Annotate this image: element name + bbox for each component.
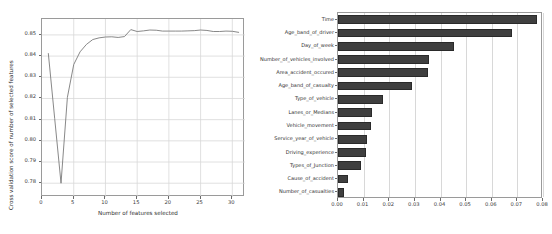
bar-category-label: Cause_of_accident: [287, 176, 334, 181]
bar: [338, 175, 348, 184]
y-tick-mark: [39, 97, 42, 98]
y-tick-mark: [335, 112, 337, 113]
bar-row: [338, 188, 541, 197]
bar-row: [338, 175, 541, 184]
bar-row: [338, 68, 541, 77]
bar: [338, 148, 366, 157]
x-tick-label: 15: [133, 200, 140, 205]
bar-chart-panel: TimeAge_band_of_driverDay_of_weekNumber_…: [276, 0, 552, 234]
bar-category-label: Lanes_or_Medians: [288, 109, 334, 114]
y-tick-mark: [335, 72, 337, 73]
bar-row: [338, 122, 541, 131]
y-tick-mark: [335, 191, 337, 192]
gridline: [543, 13, 544, 197]
y-tick-label: 0.83: [24, 74, 36, 79]
bar-category-label: Vehicle_movement: [287, 122, 334, 127]
bar-category-label: Type_of_vehicle: [295, 96, 334, 101]
bar-category-label: Number_of_vehicles_involved: [260, 56, 334, 61]
y-tick-mark: [335, 85, 337, 86]
line-chart-panel: Cross validation score of number of sele…: [0, 0, 276, 234]
y-tick-mark: [39, 161, 42, 162]
bar: [338, 108, 372, 117]
bar: [338, 15, 537, 24]
y-tick-mark: [39, 119, 42, 120]
bar-row: [338, 135, 541, 144]
line-chart-plot-area: [41, 18, 244, 196]
x-tick-label: 0.04: [434, 202, 446, 207]
y-tick-mark: [335, 125, 337, 126]
y-tick-mark: [335, 19, 337, 20]
figure-container: Cross validation score of number of sele…: [0, 0, 552, 234]
bar-row: [338, 148, 541, 157]
y-tick-label: 0.81: [24, 116, 36, 121]
bar: [338, 95, 383, 104]
y-tick-label: 0.79: [24, 158, 36, 163]
bar: [338, 135, 367, 144]
bar-row: [338, 95, 541, 104]
x-tick-label: 0.08: [536, 202, 548, 207]
bar-row: [338, 161, 541, 170]
x-tick-label: 10: [101, 200, 108, 205]
x-tick-label: 0.05: [459, 202, 471, 207]
bar-row: [338, 82, 541, 91]
y-tick-mark: [335, 138, 337, 139]
bar-row: [338, 42, 541, 51]
y-tick-label: 0.84: [24, 52, 36, 57]
x-tick-label: 30: [228, 200, 235, 205]
bar-category-label: Number_of_casualties: [279, 189, 334, 194]
y-tick-mark: [335, 59, 337, 60]
bar-chart-plot-area: [337, 12, 542, 198]
x-tick-label: 25: [196, 200, 203, 205]
y-tick-mark: [335, 165, 337, 166]
bar-category-label: Time: [322, 16, 334, 21]
bar-row: [338, 15, 541, 24]
x-tick-label: 5: [71, 200, 74, 205]
x-tick-label: 0.07: [511, 202, 523, 207]
y-tick-mark: [39, 76, 42, 77]
y-tick-label: 0.85: [24, 31, 36, 36]
bar: [338, 68, 428, 77]
line-chart-series: [42, 19, 245, 197]
x-tick-label: 0.00: [331, 202, 343, 207]
bar-category-label: Service_year_of_vehicle: [274, 136, 334, 141]
x-tick-label: 0.02: [382, 202, 394, 207]
line-chart-x-axis-title: Number of features selected: [98, 211, 178, 217]
bar-category-label: Types_of_Junction: [290, 162, 334, 167]
y-tick-mark: [39, 34, 42, 35]
y-tick-label: 0.80: [24, 137, 36, 142]
y-tick-mark: [39, 182, 42, 183]
bar-category-label: Age_band_of_driver: [285, 29, 334, 34]
y-tick-label: 0.78: [24, 180, 36, 185]
bar: [338, 161, 361, 170]
bar: [338, 55, 429, 64]
bar: [338, 42, 454, 51]
bar-row: [338, 29, 541, 38]
bar-row: [338, 108, 541, 117]
bar-category-label: Driving_experience: [286, 149, 334, 154]
line-chart-y-axis-title: Cross validation score of number of sele…: [9, 60, 15, 210]
bar: [338, 188, 344, 197]
x-tick-label: 0.01: [357, 202, 369, 207]
x-tick-label: 0.06: [485, 202, 497, 207]
bar: [338, 82, 412, 91]
y-tick-mark: [39, 55, 42, 56]
bar-category-label: Area_accident_occured: [276, 69, 334, 74]
y-tick-label: 0.82: [24, 95, 36, 100]
x-tick-label: 0.03: [408, 202, 420, 207]
bar: [338, 122, 371, 131]
bar: [338, 29, 512, 38]
x-tick-label: 20: [165, 200, 172, 205]
y-tick-mark: [335, 32, 337, 33]
bar-category-label: Age_band_of_casualty: [278, 83, 334, 88]
y-tick-mark: [335, 178, 337, 179]
y-tick-mark: [39, 140, 42, 141]
y-tick-mark: [335, 45, 337, 46]
y-tick-mark: [335, 98, 337, 99]
x-tick-label: 0: [39, 200, 42, 205]
bar-category-label: Day_of_week: [301, 43, 334, 48]
y-tick-mark: [335, 152, 337, 153]
bar-row: [338, 55, 541, 64]
